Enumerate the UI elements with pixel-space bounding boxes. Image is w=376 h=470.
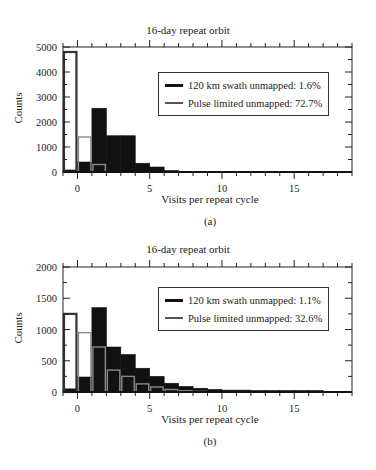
- bar-swath: [77, 162, 91, 172]
- bar-pulse-limited: [64, 314, 76, 392]
- bar-swath: [135, 163, 149, 172]
- chart-a-xlabel: Visits per repeat cycle: [22, 193, 376, 205]
- y-tick-label: 0: [52, 167, 57, 178]
- legend-swatch-filled-icon: [165, 299, 183, 302]
- y-tick-label: 1500: [36, 293, 57, 304]
- legend-swatch-outline-icon: [165, 102, 183, 104]
- y-tick-label: 1000: [36, 142, 57, 153]
- bar-swath: [150, 376, 164, 392]
- y-tick-label: 5000: [36, 42, 57, 53]
- chart-b-caption: (b): [22, 435, 376, 447]
- bar-swath: [164, 383, 178, 392]
- chart-a-legend: 120 km swath unmapped: 1.6% Pulse limite…: [158, 72, 329, 116]
- bar-swath: [92, 108, 106, 172]
- bar-swath: [77, 377, 91, 392]
- bar-swath: [121, 136, 135, 172]
- bar-swath: [106, 136, 120, 172]
- legend-item-pulse: Pulse limited unmapped: 32.6%: [165, 309, 322, 327]
- y-tick-label: 2000: [36, 117, 57, 128]
- legend-label: 120 km swath unmapped: 1.1%: [188, 295, 321, 306]
- chart-b-xlabel: Visits per repeat cycle: [22, 413, 376, 425]
- bar-swath: [121, 355, 135, 393]
- y-tick-label: 4000: [36, 67, 57, 78]
- y-tick-label: 1000: [36, 325, 57, 336]
- y-tick-label: 2000: [36, 262, 57, 273]
- legend-swatch-filled-icon: [165, 84, 183, 87]
- legend-label: Pulse limited unmapped: 32.6%: [188, 313, 322, 324]
- chart-a-caption: (a): [22, 215, 376, 227]
- bar-swath: [135, 368, 149, 392]
- chart-b-legend: 120 km swath unmapped: 1.1% Pulse limite…: [158, 287, 329, 331]
- legend-item-swath: 120 km swath unmapped: 1.1%: [165, 291, 322, 309]
- legend-item-swath: 120 km swath unmapped: 1.6%: [165, 76, 322, 94]
- bar-swath: [92, 308, 106, 392]
- legend-label: 120 km swath unmapped: 1.6%: [188, 80, 321, 91]
- y-tick-label: 3000: [36, 92, 57, 103]
- y-tick-label: 0: [52, 387, 57, 398]
- y-tick-label: 500: [41, 356, 57, 367]
- legend-label: Pulse limited unmapped: 72.7%: [188, 98, 322, 109]
- legend-item-pulse: Pulse limited unmapped: 72.7%: [165, 94, 322, 112]
- bar-pulse-limited: [64, 52, 76, 172]
- legend-swatch-outline-icon: [165, 317, 183, 319]
